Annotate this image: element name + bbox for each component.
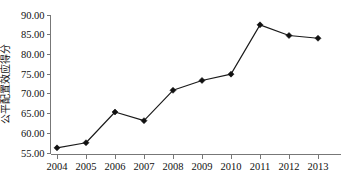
x-tick-label: 2007: [134, 161, 155, 172]
x-tick-label: 2009: [192, 161, 213, 172]
y-tick-label: 70.00: [21, 88, 45, 99]
y-tick-label: 85.00: [21, 29, 45, 40]
x-tick-label: 2006: [105, 161, 126, 172]
x-tick-label: 2004: [47, 161, 69, 172]
y-tick-label: 55.00: [21, 148, 45, 159]
y-tick-label: 80.00: [21, 49, 45, 60]
series-marker-point: [315, 35, 321, 41]
chart-canvas: 90.0085.0080.0075.0070.0065.0060.0055.00…: [0, 0, 347, 184]
series-marker-point: [54, 145, 60, 151]
y-axis-title: 公平配置效应得分: [0, 44, 11, 124]
line-chart: 90.0085.0080.0075.0070.0065.0060.0055.00…: [0, 0, 347, 184]
x-tick-label: 2010: [221, 161, 242, 172]
series-marker-point: [257, 22, 263, 28]
y-tick-label: 60.00: [21, 128, 45, 139]
x-tick-label: 2005: [76, 161, 97, 172]
series-marker-point: [199, 77, 205, 83]
y-tick-label: 90.00: [21, 10, 45, 21]
y-tick-label: 75.00: [21, 69, 45, 80]
series-marker-point: [286, 33, 292, 39]
x-tick-label: 2012: [279, 161, 300, 172]
x-tick-label: 2013: [308, 161, 329, 172]
x-tick-label: 2008: [163, 161, 184, 172]
y-tick-label: 65.00: [21, 108, 45, 119]
series-line: [57, 25, 318, 148]
series-marker-point: [228, 71, 234, 77]
x-tick-label: 2011: [250, 161, 271, 172]
